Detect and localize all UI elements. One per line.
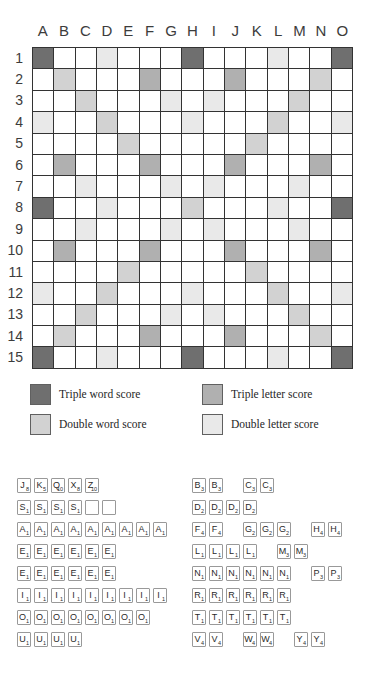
tile-value: 1 [286,618,289,624]
tile-value: 1 [43,596,46,602]
tile-value: 3 [201,486,204,492]
tile-value: 1 [111,596,114,602]
board-cell-C4 [76,112,97,133]
tile-D: D2 [192,500,206,515]
board-cell-H14 [182,326,203,347]
column-label-O: O [332,22,353,39]
board-cell-O6 [332,155,353,176]
tile-A: A1 [136,522,150,537]
tile-value: 3 [303,552,306,558]
column-label-H: H [182,22,203,39]
board-cell-E2 [118,69,139,90]
board-cell-J4 [225,112,246,133]
tile-K: K5 [34,478,48,493]
tile-B: B3 [192,478,206,493]
tile-N: N1 [226,566,240,581]
tile-A: A1 [85,522,99,537]
double-word-swatch [30,414,51,435]
board-cell-E3 [118,91,139,112]
board-cell-I4 [204,112,225,133]
tile-A: A1 [68,522,82,537]
tile-I: I1 [85,588,99,603]
tile-I: I1 [153,588,167,603]
tile-value: 1 [43,574,46,580]
tile-value: 1 [111,618,114,624]
board-cell-O12 [332,283,353,304]
board-cell-F13 [140,305,161,326]
tile-value: 1 [201,618,204,624]
board-cell-B8 [54,198,75,219]
tile-O: O1 [102,610,116,625]
tile-R: R1 [243,588,257,603]
row-label-2: 2 [0,68,28,89]
board-cell-I8 [204,198,225,219]
board-cell-I7 [204,176,225,197]
tile-value: 2 [252,530,255,536]
board-cell-I10 [204,241,225,262]
tile-value: 4 [320,640,323,646]
board-cell-A13 [33,305,54,326]
tile-row-left-7: O1O1O1O1O1O1O1O1 [17,610,167,625]
tile-value: 1 [77,618,80,624]
tile-L: L1 [192,544,206,559]
board-cell-N1 [310,48,331,69]
tile-gap [294,522,308,537]
tile-T: T1 [277,610,291,625]
board-cell-D10 [97,241,118,262]
row-label-15: 15 [0,346,28,367]
board-cell-B14 [54,326,75,347]
tile-value: 4 [303,640,306,646]
board-cell-N8 [310,198,331,219]
tile-G: G2 [243,522,257,537]
board-cell-E11 [118,262,139,283]
tile-value: 3 [252,486,255,492]
column-labels: ABCDEFGHIJKLMNO [32,22,353,39]
board-cell-H8 [182,198,203,219]
tile-value: 1 [252,552,255,558]
column-label-K: K [246,22,267,39]
board-cell-B13 [54,305,75,326]
board-cell-F8 [140,198,161,219]
tile-B: B3 [209,478,223,493]
board-cell-M5 [289,134,310,155]
board-cell-E13 [118,305,139,326]
tile-H: H4 [328,522,342,537]
tile-value: 3 [218,486,221,492]
tile-Y: Y4 [294,632,308,647]
tile-O: O1 [51,610,65,625]
board-cell-M7 [289,176,310,197]
board-cell-I5 [204,134,225,155]
tile-I: I1 [17,588,31,603]
board-cell-B5 [54,134,75,155]
column-label-J: J [225,22,246,39]
board-cell-L14 [268,326,289,347]
board-cell-K9 [246,219,267,240]
board-cell-D13 [97,305,118,326]
board-cell-H5 [182,134,203,155]
row-label-3: 3 [0,90,28,111]
row-label-6: 6 [0,154,28,175]
board-cell-G9 [161,219,182,240]
tile-value: 1 [60,530,63,536]
board-cell-B3 [54,91,75,112]
legend-label: Double word score [59,418,147,430]
board-cell-O4 [332,112,353,133]
board-cell-F6 [140,155,161,176]
board-cell-F11 [140,262,161,283]
board-cell-O13 [332,305,353,326]
board-cell-G6 [161,155,182,176]
tile-N: N1 [209,566,223,581]
row-label-1: 1 [0,47,28,68]
tile-X: X8 [68,478,82,493]
board-cell-F9 [140,219,161,240]
board-cell-L15 [268,347,289,368]
tile-E: E1 [85,544,99,559]
board-cell-A2 [33,69,54,90]
board-cell-F2 [140,69,161,90]
board-cell-A14 [33,326,54,347]
board-cell-E14 [118,326,139,347]
board-cell-E4 [118,112,139,133]
tile-value: 1 [201,574,204,580]
board-cell-G13 [161,305,182,326]
tile-C: C3 [260,478,274,493]
